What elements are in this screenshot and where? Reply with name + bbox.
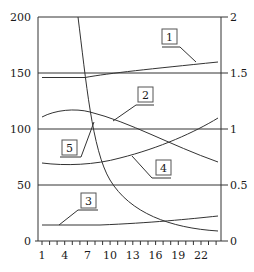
x-tick-22: 22 [194, 249, 208, 262]
label-2-leader [113, 105, 154, 121]
right-tick-0: 0 [230, 235, 237, 248]
label-1-leader [162, 47, 196, 62]
left-tick-200: 200 [10, 11, 31, 24]
label-5: 5 [66, 142, 73, 155]
left-tick-150: 150 [10, 67, 31, 80]
x-tick-4: 4 [61, 249, 68, 262]
label-3-leader [59, 210, 98, 225]
left-tick-0: 0 [24, 235, 31, 248]
x-tick-10: 10 [103, 249, 117, 262]
left-tick-50: 50 [17, 179, 31, 192]
x-tick-13: 13 [126, 249, 140, 262]
x-tick-7: 7 [84, 249, 91, 262]
chart: 0 50 100 150 200 0 0.5 1 1.5 2 1 4 7 10 … [0, 0, 254, 272]
series-5-curve [78, 17, 218, 231]
label-2: 2 [142, 89, 149, 102]
label-1: 1 [166, 31, 173, 44]
x-tick-19: 19 [171, 249, 185, 262]
right-tick-1.5: 1.5 [230, 67, 248, 80]
label-3: 3 [85, 195, 92, 208]
right-tick-0.5: 0.5 [230, 179, 248, 192]
x-tick-1: 1 [39, 249, 46, 262]
label-4: 4 [160, 162, 167, 175]
x-tick-16: 16 [149, 249, 163, 262]
x-tick-marks [42, 241, 216, 245]
right-tick-1: 1 [230, 123, 237, 136]
right-tick-2: 2 [230, 11, 237, 24]
series-1-line [42, 62, 218, 78]
left-tick-100: 100 [10, 123, 31, 136]
